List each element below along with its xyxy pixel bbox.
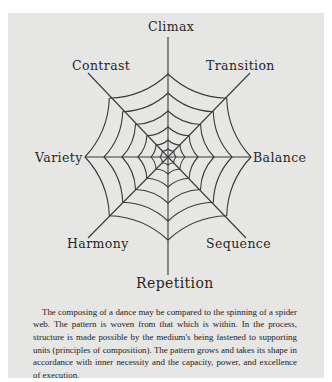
label-sequence: Sequence xyxy=(206,236,271,251)
label-repetition: Repetition xyxy=(136,275,214,291)
label-transition: Transition xyxy=(206,58,275,73)
label-balance: Balance xyxy=(253,150,306,165)
caption-text: The composing of a dance may be compared… xyxy=(33,306,297,382)
label-harmony: Harmony xyxy=(67,236,129,251)
label-variety: Variety xyxy=(35,150,83,165)
label-contrast: Contrast xyxy=(72,58,130,73)
label-climax: Climax xyxy=(148,19,194,34)
spoke-transition xyxy=(168,73,250,157)
spoke-contrast xyxy=(88,73,168,157)
